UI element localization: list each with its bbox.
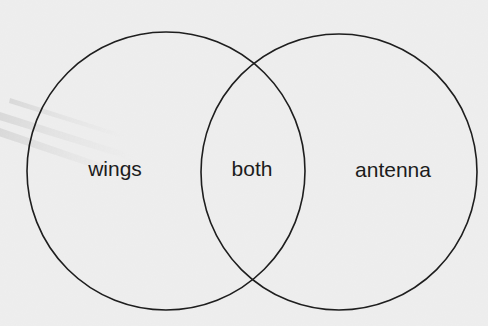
label-both: both [232,157,273,181]
label-wings: wings [88,157,142,181]
venn-diagram: wings both antenna [0,0,488,326]
label-antenna: antenna [355,158,431,182]
